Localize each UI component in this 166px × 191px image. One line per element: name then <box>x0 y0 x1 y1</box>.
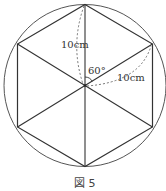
label-radius-upper: 10cm <box>61 39 89 50</box>
label-angle: 60° <box>88 65 106 76</box>
figure-caption: 図 5 <box>74 177 96 190</box>
hexagon-diagram: 10cm 60° 10cm 図 5 <box>0 0 166 191</box>
center-point <box>84 84 87 87</box>
label-radius-right: 10cm <box>117 72 145 83</box>
angle-arc <box>85 77 92 81</box>
